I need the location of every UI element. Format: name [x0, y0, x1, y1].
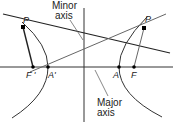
point-p-right-label: P [145, 15, 151, 24]
point-p-left [21, 25, 25, 29]
vertex-left-label: A' [48, 71, 56, 80]
right-p-to-right-focus-line [134, 28, 144, 67]
point-vertex-right [117, 65, 121, 69]
vertex-right-label: A [113, 71, 119, 80]
minor-axis-label-line2: axis [55, 11, 73, 21]
hyperbola-diagram: Minor axis Major axis P P F ' A' A F [0, 0, 173, 128]
major-axis-label-line2: axis [97, 108, 115, 118]
point-p-left-label: P [23, 16, 29, 25]
focus-left-label: F ' [26, 71, 36, 80]
point-vertex-left [46, 65, 50, 69]
left-p-to-left-focus-line [23, 27, 33, 67]
major-axis-leader [95, 70, 108, 96]
point-p-right [142, 26, 146, 30]
point-focus-left [31, 65, 35, 69]
point-focus-right [132, 65, 136, 69]
focus-right-label: F [131, 71, 137, 80]
